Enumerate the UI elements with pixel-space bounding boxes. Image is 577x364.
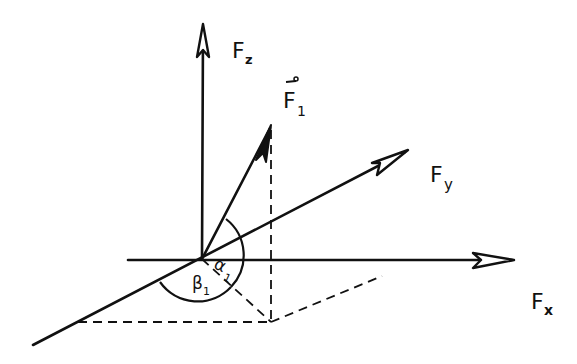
svg-text:F: F [430, 162, 443, 187]
label-fx: F x [531, 289, 553, 318]
svg-text:F: F [283, 88, 296, 113]
label-fy: F y [430, 162, 453, 194]
svg-text:β: β [192, 273, 203, 293]
svg-text:x: x [544, 302, 553, 318]
force-diagram: F z F 1 F y F x α 1 β 1 [0, 0, 577, 364]
y-axis-arrowhead [372, 150, 408, 175]
svg-text:z: z [245, 52, 253, 67]
projection-lines [78, 130, 382, 322]
label-f1: F 1 [283, 77, 306, 119]
z-axis [197, 24, 209, 259]
svg-text:y: y [444, 176, 453, 194]
x-axis-arrowhead [473, 253, 514, 268]
svg-text:F: F [232, 38, 245, 63]
f1-arrowhead [256, 125, 271, 162]
y-axis [33, 150, 408, 345]
svg-text:F: F [531, 289, 544, 314]
label-beta1: β 1 [192, 273, 210, 298]
svg-text:1: 1 [203, 285, 210, 298]
svg-text:1: 1 [221, 271, 233, 286]
svg-text:1: 1 [297, 103, 306, 119]
label-fz: F z [232, 38, 253, 67]
label-alpha1: α 1 [209, 253, 239, 285]
